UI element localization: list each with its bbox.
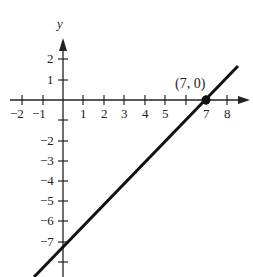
svg-text:3: 3 (121, 106, 128, 121)
svg-text:−1: −1 (32, 106, 46, 121)
svg-text:−6: −6 (40, 213, 54, 228)
svg-text:4: 4 (142, 106, 149, 121)
point-label: (7, 0) (175, 76, 206, 92)
y-tick-labels: 2 1 −2 −3 −4 −5 −6 −7 (40, 51, 54, 249)
svg-text:2: 2 (101, 106, 108, 121)
svg-text:1: 1 (47, 72, 54, 87)
y-axis-label: y (55, 16, 63, 31)
svg-text:−3: −3 (40, 153, 54, 168)
svg-text:−2: −2 (10, 106, 24, 121)
graph: y −2 −1 1 2 3 4 5 7 8 2 1 (0, 0, 253, 277)
point-marker (202, 96, 211, 105)
x-axis-arrow-icon (238, 96, 250, 104)
svg-text:2: 2 (47, 51, 54, 66)
svg-text:8: 8 (224, 106, 231, 121)
svg-text:−2: −2 (40, 133, 54, 148)
svg-text:−7: −7 (40, 234, 54, 249)
svg-text:1: 1 (80, 106, 87, 121)
y-axis-arrow-icon (59, 38, 67, 51)
svg-text:5: 5 (162, 106, 169, 121)
svg-text:−5: −5 (40, 193, 54, 208)
svg-text:7: 7 (203, 106, 210, 121)
svg-text:−4: −4 (40, 173, 54, 188)
